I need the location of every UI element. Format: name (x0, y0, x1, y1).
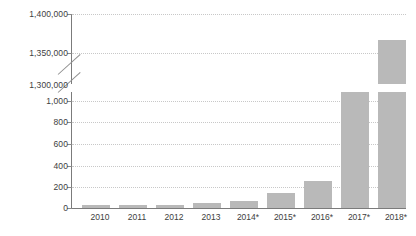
y-axis-line (71, 14, 72, 208)
plot-area (72, 14, 406, 208)
ytick-label-800: 800 (54, 117, 68, 127)
xtick-label-2018: 2018* (368, 212, 416, 222)
ytick-label-1350000: 1,350,000 (29, 48, 68, 58)
bar-2016 (304, 181, 332, 208)
gridline-1350000 (72, 53, 406, 54)
gridline-1400000 (72, 14, 406, 15)
ytick-label-200: 200 (54, 182, 68, 192)
bar-2017 (341, 92, 369, 208)
axis-break-gap (60, 84, 410, 92)
ytick-label-1300000: 1,300,000 (29, 80, 68, 90)
ytick-label-1400000: 1,400,000 (29, 9, 68, 19)
x-axis-line (71, 208, 406, 209)
bar-2015 (267, 193, 295, 208)
ytick-label-1000: 1,000 (46, 96, 68, 106)
bar-2014 (230, 201, 258, 208)
bar-chart: 1,400,000 1,350,000 1,300,000 1,000 800 … (0, 0, 416, 236)
ytick-label-400: 400 (54, 161, 68, 171)
ytick-label-600: 600 (54, 139, 68, 149)
ytick-label-0: 0 (63, 203, 68, 213)
bar-2018-lower (378, 92, 406, 208)
